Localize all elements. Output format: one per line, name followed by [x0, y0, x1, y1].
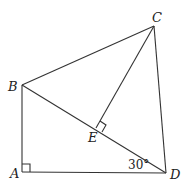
- right-angle-marker-e: [100, 121, 106, 132]
- label-b: B: [7, 79, 18, 94]
- right-angle-marker-a: [22, 164, 30, 172]
- segment-ce: [96, 26, 154, 128]
- label-c: C: [152, 10, 162, 25]
- geometry-diagram: A B C D E 30°: [0, 0, 186, 187]
- angle-label-d: 30°: [128, 158, 149, 172]
- segment-bc: [22, 26, 154, 85]
- label-e: E: [87, 130, 98, 145]
- segment-cd: [154, 26, 166, 173]
- segment-ad: [22, 172, 166, 173]
- label-d: D: [169, 167, 181, 182]
- label-a: A: [9, 166, 19, 181]
